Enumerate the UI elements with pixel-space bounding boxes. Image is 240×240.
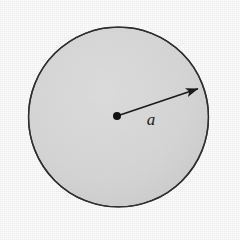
circle-radius-diagram: a [0,0,240,240]
figure-canvas: a [0,0,240,240]
center-dot [113,112,121,120]
radius-label: a [147,110,156,129]
